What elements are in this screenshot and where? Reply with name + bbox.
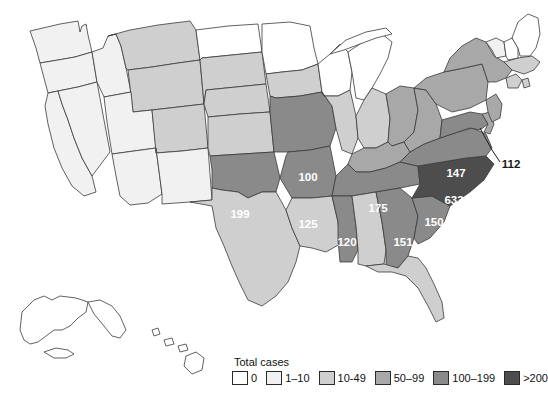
state-hawaii-2[interactable] <box>164 338 174 346</box>
map-legend: Total cases 0 1–10 10-49 50–99 100–199 <box>232 356 542 398</box>
legend-label-4: 100–199 <box>452 372 495 384</box>
label-mississippi: 120 <box>337 236 356 248</box>
legend-swatch-5 <box>504 371 520 385</box>
state-connecticut[interactable] <box>506 74 522 88</box>
state-florida[interactable] <box>366 256 444 322</box>
legend-swatch-0 <box>232 371 248 385</box>
label-tennessee: 175 <box>368 202 388 214</box>
state-texas[interactable] <box>190 188 300 306</box>
legend-item-0[interactable]: 0 <box>232 371 257 385</box>
label-missouri: 100 <box>298 171 317 183</box>
legend-swatch-4 <box>433 371 449 385</box>
state-alaska-aleutians[interactable] <box>44 348 74 358</box>
legend-swatch-row: 0 1–10 10-49 50–99 100–199 >200 <box>232 371 542 385</box>
label-oklahoma: 199 <box>230 208 249 220</box>
legend-item-5[interactable]: >200 <box>504 371 548 385</box>
state-minnesota[interactable] <box>262 22 318 74</box>
legend-swatch-3 <box>375 371 391 385</box>
state-hawaii-3[interactable] <box>178 344 188 352</box>
state-arizona[interactable] <box>112 148 162 205</box>
legend-label-3: 50–99 <box>394 372 425 384</box>
label-south-carolina: 150 <box>424 216 443 228</box>
legend-label-2: 10-49 <box>338 372 366 384</box>
legend-label-1: 1–10 <box>285 372 309 384</box>
state-alaska-panhandle[interactable] <box>88 300 126 338</box>
state-rhode-island[interactable] <box>522 78 530 88</box>
label-virginia: 147 <box>446 167 465 179</box>
legend-swatch-2 <box>319 371 335 385</box>
legend-title: Total cases <box>234 356 542 368</box>
state-new-mexico[interactable] <box>156 148 212 204</box>
state-alaska[interactable] <box>20 296 88 344</box>
legend-swatch-1 <box>266 371 282 385</box>
label-maryland: 112 <box>502 158 521 170</box>
legend-label-5: >200 <box>523 372 548 384</box>
state-missouri[interactable] <box>270 92 336 152</box>
state-kansas[interactable] <box>208 112 274 156</box>
legend-item-4[interactable]: 100–199 <box>433 371 495 385</box>
label-georgia: 151 <box>393 236 413 248</box>
legend-item-3[interactable]: 50–99 <box>375 371 425 385</box>
legend-label-0: 0 <box>251 372 257 384</box>
state-nebraska[interactable] <box>204 84 270 117</box>
label-north-carolina: 633 <box>444 194 463 206</box>
legend-item-1[interactable]: 1–10 <box>266 371 309 385</box>
legend-item-2[interactable]: 10-49 <box>319 371 366 385</box>
state-hawaii-big-island[interactable] <box>184 352 204 374</box>
state-hawaii-1[interactable] <box>152 328 160 336</box>
state-colorado[interactable] <box>152 104 208 153</box>
label-arkansas: 125 <box>298 218 318 230</box>
